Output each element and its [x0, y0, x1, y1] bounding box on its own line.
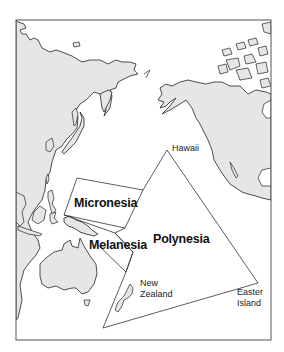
- melanesia-label: Melanesia: [89, 238, 147, 252]
- tasmania: [84, 300, 90, 306]
- alaska-aleutians: [144, 70, 150, 78]
- new-zealand-land: [115, 284, 133, 312]
- landmasses: [16, 20, 271, 320]
- easter-island-label-line2: Island: [237, 298, 263, 309]
- polynesia-label: Polynesia: [153, 232, 210, 246]
- sulawesi: [50, 212, 58, 224]
- hawaii-label: Hawaii: [172, 143, 199, 154]
- easter-island-label: Easter Island: [237, 287, 263, 309]
- new-zealand-label-line2: Zealand: [140, 289, 173, 300]
- arctic-islands: [218, 22, 271, 88]
- new-zealand-label: New Zealand: [140, 278, 173, 300]
- micronesia-label: Micronesia: [74, 196, 137, 210]
- easter-island-label-line1: Easter: [237, 287, 263, 298]
- north-america: [158, 80, 271, 200]
- wrangel-island: [73, 42, 80, 47]
- philippines: [48, 190, 56, 214]
- new-zealand-label-line1: New: [140, 278, 173, 289]
